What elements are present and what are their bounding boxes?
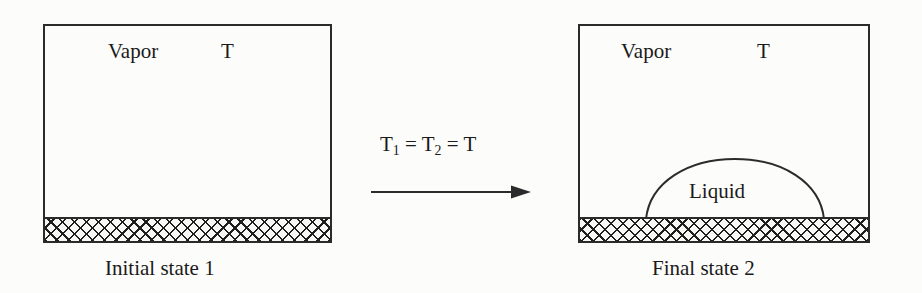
vapor-label-initial-state: Vapor bbox=[108, 41, 158, 62]
liquid-label-final-state: Liquid bbox=[689, 181, 745, 202]
condition-subscript-1: 1 bbox=[393, 143, 400, 158]
figure-canvas: Vapor T Initial state 1 T1 = T2 = T Vapo… bbox=[0, 0, 922, 293]
process-condition-equation: T1 = T2 = T bbox=[380, 134, 476, 158]
vapor-label-final-state: Vapor bbox=[621, 41, 671, 62]
vessel-initial-state bbox=[43, 24, 332, 243]
hatched-wall-initial-state bbox=[45, 217, 330, 241]
condition-equals-T: = T bbox=[442, 132, 477, 156]
condition-equals-T2: = T bbox=[400, 132, 435, 156]
caption-initial-state: Initial state 1 bbox=[105, 258, 215, 279]
caption-final-state: Final state 2 bbox=[652, 258, 755, 279]
hatched-wall-final-state bbox=[580, 217, 868, 241]
arrow-head bbox=[511, 186, 531, 199]
condition-T1-base: T bbox=[380, 132, 393, 156]
temperature-label-final-state: T bbox=[757, 41, 770, 62]
process-arrow-icon bbox=[370, 180, 532, 204]
condition-subscript-2: 2 bbox=[435, 143, 442, 158]
temperature-label-initial-state: T bbox=[221, 41, 234, 62]
